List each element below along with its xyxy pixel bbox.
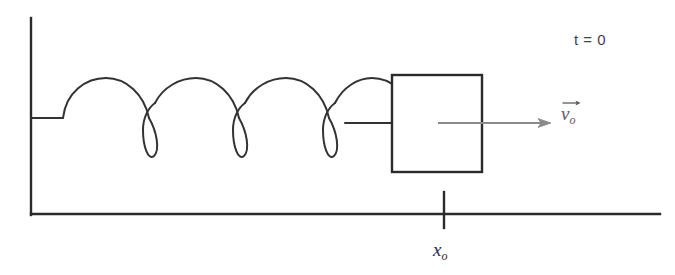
velocity-vector-label: v o: [561, 104, 575, 126]
velocity-symbol: v: [561, 103, 569, 124]
spring-loop-3: [323, 103, 337, 157]
position-subscript: o: [441, 249, 447, 263]
velocity-symbol-stack: v: [561, 104, 569, 123]
spring-coil-3: [245, 78, 329, 118]
spring: [31, 78, 417, 157]
spring-loop-1: [143, 103, 157, 157]
time-label: t = 0: [574, 32, 606, 47]
vector-arrow-icon: [562, 97, 581, 106]
spring-coil-2: [155, 78, 239, 118]
spring-loop-2: [233, 103, 247, 157]
position-label: xo: [433, 240, 447, 262]
spring-coil-1: [63, 78, 149, 118]
velocity-subscript: o: [569, 113, 575, 127]
spring-mass-diagram: t = 0 v o xo: [0, 0, 675, 275]
